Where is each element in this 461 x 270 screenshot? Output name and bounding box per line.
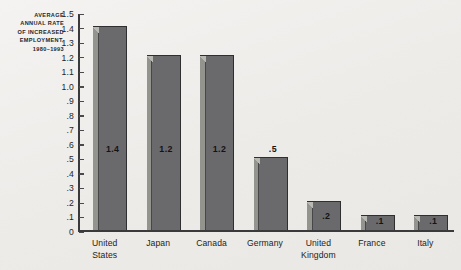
- bar[interactable]: .1: [361, 215, 395, 230]
- bar-slot: .2: [307, 14, 341, 230]
- bar[interactable]: 1.2: [147, 55, 181, 229]
- y-tick-label: .9: [54, 96, 74, 106]
- category-label-line: Canada: [181, 238, 242, 250]
- bar-value-label: 1.2: [152, 144, 180, 154]
- category-label-line: Italy: [395, 238, 456, 250]
- bar-corner-highlight: [93, 27, 99, 33]
- plot-area: 0.1.2.3.4.5.6.7.8.91.01.11.21.31.41.5 1.…: [78, 14, 452, 232]
- y-tick-label: .5: [54, 154, 74, 164]
- category-label: France: [341, 238, 402, 250]
- bar-slot: .5: [254, 14, 288, 230]
- bar-corner-highlight: [147, 56, 153, 62]
- bar-value-label: .1: [366, 216, 394, 226]
- y-tick-label: .7: [54, 125, 74, 135]
- category-label: Canada: [181, 238, 242, 250]
- bar-value-label: 1.4: [99, 144, 127, 154]
- y-tick-label: .3: [54, 183, 74, 193]
- y-tick-label: .2: [54, 198, 74, 208]
- bar-chart: AVERAGE ANNUAL RATE OF INCREASED EMPLOYM…: [0, 0, 461, 270]
- bar-value-label: .5: [259, 144, 287, 154]
- bar[interactable]: .2: [307, 201, 341, 230]
- bar-slot: 1.4: [93, 14, 127, 230]
- category-label-line: France: [341, 238, 402, 250]
- bar-corner-highlight: [200, 56, 206, 62]
- bar-value-label: .2: [313, 211, 341, 221]
- bar-slot: 1.2: [200, 14, 234, 230]
- bar-value-label: 1.2: [206, 144, 234, 154]
- category-label-line: United: [288, 238, 349, 250]
- y-tick-label: 1.1: [54, 67, 74, 77]
- category-label: Italy: [395, 238, 456, 250]
- y-tick-label: 1.5: [54, 9, 74, 19]
- bar[interactable]: .1: [414, 215, 448, 230]
- bar-bevel: [93, 27, 99, 229]
- bar-slot: .1: [414, 14, 448, 230]
- category-label-line: States: [74, 250, 135, 262]
- category-label: UnitedKingdom: [288, 238, 349, 261]
- bar[interactable]: 1.4: [93, 26, 127, 229]
- y-tick-label: .6: [54, 140, 74, 150]
- y-tick-mark: [79, 232, 85, 233]
- category-label: Germany: [234, 238, 295, 250]
- category-label: Japan: [127, 238, 188, 250]
- bar-slot: .1: [361, 14, 395, 230]
- category-label-line: United: [74, 238, 135, 250]
- y-tick-label: 1.0: [54, 82, 74, 92]
- y-tick-label: 1.4: [54, 24, 74, 34]
- bar-corner-highlight: [254, 158, 260, 164]
- bar-bevel: [254, 158, 260, 230]
- y-tick-label: 1.3: [54, 38, 74, 48]
- y-tick-label: 0: [54, 227, 74, 237]
- category-label-line: Japan: [127, 238, 188, 250]
- bar-corner-highlight: [307, 202, 313, 208]
- bar-series: 1.41.21.2.5.2.1.1: [80, 14, 452, 230]
- bar[interactable]: .5: [254, 157, 288, 230]
- bar-slot: 1.2: [147, 14, 181, 230]
- category-label-line: Germany: [234, 238, 295, 250]
- y-tick-label: 1.2: [54, 53, 74, 63]
- category-label-line: Kingdom: [288, 250, 349, 262]
- bar-value-label: .1: [419, 216, 447, 226]
- category-label: UnitedStates: [74, 238, 135, 261]
- bar[interactable]: 1.2: [200, 55, 234, 229]
- y-tick-label: .1: [54, 212, 74, 222]
- y-tick-label: .4: [54, 169, 74, 179]
- y-tick-label: .8: [54, 111, 74, 121]
